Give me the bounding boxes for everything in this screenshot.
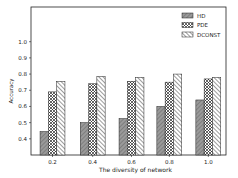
bar-pde bbox=[89, 84, 97, 155]
bar-dconst bbox=[173, 74, 181, 155]
bar-pde bbox=[204, 79, 212, 155]
y-tick-label: 0.9 bbox=[18, 55, 27, 61]
legend-label: DCONST bbox=[197, 32, 221, 38]
bar-dconst bbox=[97, 76, 105, 155]
legend-label: PDE bbox=[197, 22, 209, 28]
x-axis-label: The diversity of network bbox=[98, 166, 172, 174]
bar-hd bbox=[157, 106, 165, 155]
x-tick-label: 0.4 bbox=[88, 159, 97, 165]
y-tick-label: 0.4 bbox=[18, 136, 27, 142]
bar-hd bbox=[80, 123, 88, 155]
y-axis-label: Accuracy bbox=[8, 78, 15, 104]
legend-swatch-pde bbox=[182, 23, 193, 28]
y-tick-label: 0.5 bbox=[18, 120, 27, 126]
bar-hd bbox=[40, 132, 48, 155]
x-tick-label: 1.0 bbox=[204, 159, 213, 165]
x-tick-label: 0.6 bbox=[127, 159, 136, 165]
bar-dconst bbox=[212, 77, 220, 155]
bar-hd bbox=[119, 119, 127, 155]
y-tick-label: 0.8 bbox=[18, 71, 27, 77]
bar-pde bbox=[127, 81, 135, 155]
x-tick-label: 0.2 bbox=[48, 159, 57, 165]
y-tick-label: 1.0 bbox=[18, 39, 27, 45]
bar-dconst bbox=[136, 77, 144, 155]
legend-swatch-dconst bbox=[182, 32, 193, 37]
bar-dconst bbox=[57, 81, 65, 155]
y-tick-label: 0.7 bbox=[18, 87, 27, 93]
bar-chart: 0.40.50.60.70.80.91.00.20.40.60.81.0The … bbox=[0, 0, 238, 178]
bar-pde bbox=[165, 82, 173, 155]
legend-label: HD bbox=[197, 13, 205, 19]
x-tick-label: 0.8 bbox=[165, 159, 174, 165]
y-tick-label: 0.6 bbox=[18, 103, 27, 109]
bar-pde bbox=[48, 92, 56, 155]
legend: HDPDEDCONST bbox=[182, 13, 221, 38]
legend-swatch-hd bbox=[182, 13, 193, 18]
bar-hd bbox=[196, 100, 204, 155]
